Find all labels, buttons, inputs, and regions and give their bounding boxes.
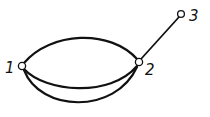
node-2-circle	[135, 58, 142, 65]
edge-1-2-lower-outer	[24, 67, 137, 102]
node-3: 3	[178, 7, 199, 25]
edge-1-2-lower-inner	[24, 66, 137, 88]
node-1: 1	[5, 59, 26, 77]
node-3-label: 3	[189, 7, 199, 25]
edge-2-3	[141, 17, 179, 59]
edge-1-2-upper	[24, 38, 138, 63]
node-2-label: 2	[145, 61, 155, 79]
graph-diagram: 1 2 3	[0, 0, 210, 117]
node-1-label: 1	[5, 59, 15, 77]
node-3-circle	[178, 11, 185, 18]
node-2: 2	[135, 58, 154, 79]
node-1-circle	[18, 62, 25, 69]
